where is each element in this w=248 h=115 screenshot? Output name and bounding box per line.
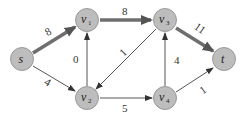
node-v4: v 4 <box>154 87 177 110</box>
edge-label-v2-v4: 5 <box>122 102 128 114</box>
edge-label-v1-v3: 8 <box>122 5 128 17</box>
node-label-v4: v <box>159 90 165 104</box>
edge-label-v2-v1: 0 <box>73 53 79 65</box>
edge-label-v4-t: 1 <box>197 83 208 96</box>
node-label-v1: v <box>81 12 87 26</box>
node-label-v2: v <box>81 90 87 104</box>
node-sub-v3: 3 <box>166 19 170 27</box>
node-v3: v 3 <box>154 9 177 32</box>
edge-label-s-v2: 4 <box>42 75 53 88</box>
edge-label-v3-t: 11 <box>192 20 208 36</box>
edge-v3-v2 <box>96 29 156 89</box>
node-v1: v 1 <box>76 9 99 32</box>
node-t: t <box>213 48 236 71</box>
edge-v3-t <box>176 28 213 51</box>
edge-label-s-v1: 8 <box>42 25 53 38</box>
node-sub-v2: 2 <box>88 97 92 105</box>
edge-s-v2 <box>33 66 75 91</box>
node-v2: v 2 <box>76 87 99 110</box>
node-sub-v1: 1 <box>88 19 92 27</box>
node-s: s <box>11 48 34 71</box>
edge-v4-t <box>176 68 213 92</box>
node-label-v3: v <box>159 12 165 26</box>
flow-network-diagram: 8 8 11 4 0 1 5 4 1 s v 1 v 3 t v 2 v 4 <box>0 0 248 115</box>
node-label-s: s <box>19 52 24 66</box>
edge-label-v3-v2: 1 <box>117 46 129 58</box>
edge-label-v4-v3: 4 <box>174 54 180 66</box>
edge-s-v1 <box>33 27 75 53</box>
node-sub-v4: 4 <box>166 97 170 105</box>
diagram-svg: 8 8 11 4 0 1 5 4 1 s v 1 v 3 t v 2 v 4 <box>0 0 248 115</box>
